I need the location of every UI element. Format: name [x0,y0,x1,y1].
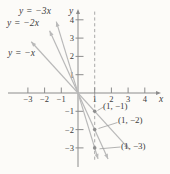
graph-line-2-arrow-upper [56,22,60,27]
x-tick-label: 4 [143,94,148,104]
data-point-2 [93,146,97,150]
point-label-1-neg1: (1, −1) [103,102,128,112]
y-tick-label: 3 [70,33,74,43]
graph-line-2-arrow-lower [95,154,99,159]
graph-line-1-arrow-upper [50,31,54,36]
x-tick-label: 1 [93,94,97,104]
leader-line-1 [99,123,118,129]
y-tick-label: −1 [65,106,74,116]
data-point-1 [93,128,97,132]
line-label-y-eq-negx: y = −x [8,48,35,58]
line-label-y-eq-neg2x: y = −2x [7,18,39,28]
x-tick-label: −1 [57,94,66,104]
y-axis-label: y [69,6,73,16]
y-tick-label: −2 [65,125,74,135]
y-tick-label: −3 [65,143,74,153]
point-label-1-neg2: (1, −2) [118,116,143,126]
y-tick-label: 2 [70,51,74,61]
line-label-y-eq-neg3x: y = −3x [19,6,51,16]
graph-figure: −3−2−112344321−1−2−3 y = −3x y = −2x y =… [0,0,170,174]
x-tick-label: −2 [40,94,49,104]
graph-line-2 [56,22,98,159]
x-axis-label: x [159,94,163,104]
data-point-0 [93,110,97,114]
x-tick-label: −3 [23,94,32,104]
graph-line-1-arrow-lower [104,154,108,159]
y-axis-arrow [76,9,80,14]
point-label-1-neg3: (1, −3) [121,142,146,152]
